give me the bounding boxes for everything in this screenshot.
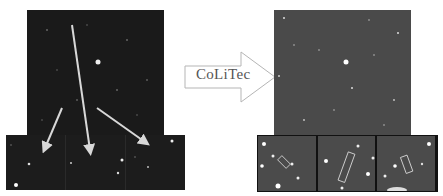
processed-inset-3 — [377, 136, 437, 191]
original-inset-2 — [66, 135, 126, 190]
detection-box — [338, 152, 355, 183]
processed-inset-2 — [318, 136, 378, 191]
detection-box — [401, 155, 413, 173]
processed-stars — [274, 10, 411, 135]
processed-frame — [274, 10, 411, 135]
original-frame — [27, 10, 164, 135]
detection-box — [278, 156, 291, 169]
processed-insets — [257, 135, 438, 192]
original-insets — [6, 135, 185, 190]
processed-inset-1 — [258, 136, 318, 191]
original-inset-3 — [126, 135, 185, 190]
original-inset-1 — [6, 135, 66, 190]
original-stars — [27, 10, 164, 135]
process-label: CoLiTec — [196, 66, 250, 83]
